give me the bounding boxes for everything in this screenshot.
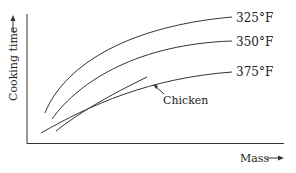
x-axis-label: Mass <box>240 152 269 165</box>
x-axis-arrow-icon <box>278 156 284 161</box>
cooking-time-chart: 325°F 350°F 375°F Chicken Mass Cooking t… <box>0 0 296 173</box>
label-chicken: Chicken <box>163 94 208 107</box>
label-325f: 325°F <box>236 11 273 25</box>
curve-chicken <box>56 77 147 131</box>
label-375f: 375°F <box>236 65 273 79</box>
y-axis-arrow-icon <box>11 15 16 21</box>
y-axis-label: Cooking time <box>7 27 20 101</box>
label-350f: 350°F <box>236 35 273 49</box>
